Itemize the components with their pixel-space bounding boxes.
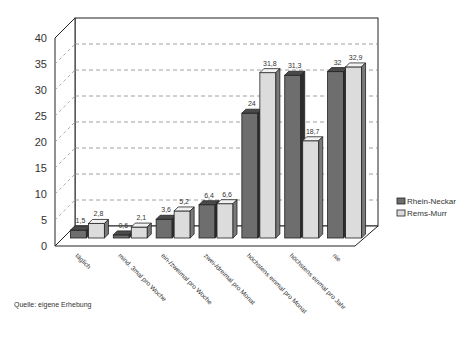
x-tick-label: täglich	[74, 252, 93, 271]
legend-swatch	[397, 210, 405, 216]
bar: 32,9	[346, 54, 366, 238]
bar: 32	[328, 59, 348, 238]
bar: 31,8	[260, 60, 280, 238]
y-tick-label: 20	[35, 136, 47, 148]
y-tick-label: 10	[35, 188, 47, 200]
y-tick-label: 5	[41, 214, 47, 226]
y-axis: 0510152025303540	[35, 32, 47, 252]
value-label: 6,4	[204, 192, 214, 199]
y-tick-label: 0	[41, 240, 47, 252]
value-label: 31,8	[263, 60, 277, 67]
bar-chart: 0510152025303540 1,52,80,62,13,65,26,46,…	[0, 0, 471, 337]
y-tick-label: 15	[35, 162, 47, 174]
x-axis-labels: täglichmind. 3mal pro Wocheein-/zweimal …	[74, 252, 348, 316]
y-tick-label: 25	[35, 110, 47, 122]
x-tick-label: nie	[331, 252, 342, 263]
legend-swatch	[397, 198, 405, 204]
y-tick-label: 35	[35, 58, 47, 70]
x-tick-label: mind. 3mal pro Woche	[116, 252, 168, 304]
value-label: 2,8	[94, 210, 104, 217]
bar: 31,3	[285, 62, 305, 238]
x-tick-label: ein-/zweimal pro Woche	[159, 252, 214, 307]
source-note: Quelle: eigene Erhebung	[14, 301, 91, 308]
value-label: 18,7	[306, 128, 320, 135]
y-tick-label: 30	[35, 84, 47, 96]
y-tick-label: 40	[35, 32, 47, 44]
legend-label: Rems-Murr	[407, 209, 447, 218]
value-label: 6,6	[222, 191, 232, 198]
bar: 24	[242, 100, 262, 238]
value-label: 24	[248, 100, 256, 107]
bar: 18,7	[303, 128, 323, 238]
value-label: 3,6	[161, 206, 171, 213]
value-label: 1,5	[76, 217, 86, 224]
value-label: 31,3	[288, 62, 302, 69]
value-label: 32	[334, 59, 342, 66]
value-label: 0,6	[118, 222, 128, 229]
value-label: 32,9	[349, 54, 363, 61]
legend-label: Rhein-Neckar	[407, 197, 456, 206]
value-label: 5,2	[179, 198, 189, 205]
value-label: 2,1	[136, 214, 146, 221]
legend: Rhein-NeckarRems-Murr	[397, 197, 456, 218]
